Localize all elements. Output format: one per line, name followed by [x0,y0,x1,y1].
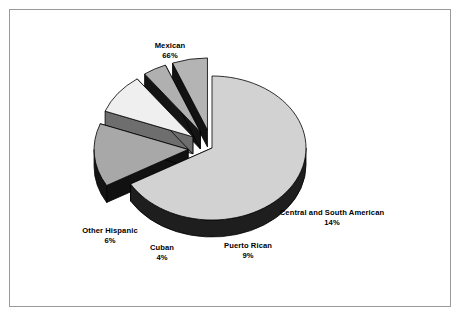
slice-label-cuban: Cuban 4% [150,243,174,263]
slice-label-mexican: Mexican 66% [155,41,186,61]
slice-label-name: Central and South American [280,208,384,218]
slice-label-name: Other Hispanic [82,226,137,236]
slice-label-value: 9% [224,251,272,261]
slice-label-puerto-rican: Puerto Rican 9% [224,241,272,261]
slice-label-value: 14% [280,218,384,228]
slice-label-value: 66% [155,51,186,61]
slice-label-name: Mexican [155,41,186,51]
slice-label-name: Puerto Rican [224,241,272,251]
slice-label-central-and-south-american: Central and South American 14% [280,208,384,228]
slice-label-other-hispanic: Other Hispanic 6% [82,226,137,246]
chart-page: Mexican 66% Central and South American 1… [0,0,462,318]
pie-chart: Mexican 66% Central and South American 1… [0,0,462,318]
slice-label-value: 4% [150,253,174,263]
slice-label-name: Cuban [150,243,174,253]
pie-chart-graphic [0,0,462,318]
slice-label-value: 6% [82,236,137,246]
